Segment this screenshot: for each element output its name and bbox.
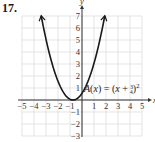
x-tick-label: 5	[140, 101, 144, 111]
x-tick-label: 1	[92, 101, 96, 111]
x-tick-label: −5	[17, 101, 26, 111]
y-tick-label: −2	[71, 119, 80, 129]
y-tick-label: 1	[76, 83, 80, 93]
function-label-text: A(x) = (x + 34)2	[83, 82, 139, 95]
x-axis-label: x	[152, 95, 155, 105]
y-tick-label: 3	[76, 59, 80, 69]
y-tick-label: 7	[76, 11, 80, 21]
y-tick-label: 5	[76, 35, 80, 45]
x-tick-label: −2	[53, 101, 62, 111]
y-tick-label: 2	[76, 71, 80, 81]
function-label: A(x) = (x + 34)2	[83, 82, 139, 95]
x-tick-label: 4	[128, 101, 133, 111]
x-tick-label: 3	[116, 101, 120, 111]
x-tick-label: 2	[104, 101, 108, 111]
y-tick-label: −3	[71, 131, 80, 141]
parabola-chart: xy −5−4−3−2−1123457654321−1−2−3 A(x) = (…	[0, 0, 155, 142]
y-tick-label: 6	[76, 23, 80, 33]
y-tick-label: −1	[71, 107, 80, 117]
axes: xy	[18, 0, 155, 137]
x-tick-label: −3	[41, 101, 50, 111]
x-tick-label: −4	[29, 101, 39, 111]
y-axis-label: y	[79, 0, 84, 6]
